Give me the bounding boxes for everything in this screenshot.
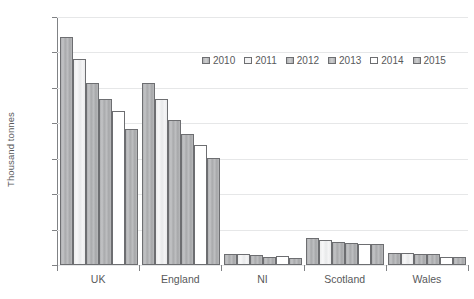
x-tick-mark [221,265,222,271]
y-tick-mark [52,194,57,195]
bar[interactable] [155,99,168,265]
y-tick-mark [52,230,57,231]
y-tick-mark [52,159,57,160]
x-tick-mark [468,265,469,271]
bar[interactable] [86,83,99,265]
legend-swatch-icon [328,57,336,64]
bar[interactable] [207,158,220,265]
legend-item[interactable]: 2010 [202,55,235,66]
x-tick-mark [304,265,305,271]
x-tick-mark [386,265,387,271]
legend-item[interactable]: 2013 [328,55,361,66]
x-axis-category-label: Wales [386,273,468,289]
legend-item[interactable]: 2015 [413,55,446,66]
bar-chart: Thousand tonnes 020004000600080001000012… [0,0,474,299]
bar-group [58,17,140,265]
bar[interactable] [358,244,371,265]
bar[interactable] [276,256,289,265]
bar[interactable] [427,254,440,265]
legend-label: 2010 [213,55,235,66]
bar[interactable] [319,240,332,265]
x-axis-category-label: UK [57,273,139,289]
legend-label: 2012 [297,55,319,66]
x-tick-mark [139,265,140,271]
bar[interactable] [224,254,237,266]
legend-label: 2011 [255,55,277,66]
bar[interactable] [112,111,125,265]
y-tick-mark [52,17,57,18]
bar[interactable] [263,257,276,266]
bar[interactable] [125,129,138,265]
bar[interactable] [73,59,86,265]
y-tick-mark [52,88,57,89]
bar[interactable] [142,83,155,265]
legend-item[interactable]: 2012 [286,55,319,66]
x-axis-category-label: Scotland [304,273,386,289]
y-axis-title: Thousand tonnes [2,0,18,299]
legend-label: 2015 [424,55,446,66]
bar[interactable] [181,134,194,265]
bar[interactable] [194,145,207,265]
legend-swatch-icon [202,57,210,64]
legend-swatch-icon [244,57,252,64]
x-axis-category-label: NI [221,273,303,289]
legend-label: 2014 [381,55,403,66]
bar[interactable] [168,120,181,265]
x-axis-ticks [57,265,468,271]
legend-item[interactable]: 2014 [370,55,403,66]
bar[interactable] [60,37,73,266]
bar[interactable] [388,253,401,265]
bar[interactable] [332,242,345,265]
bar[interactable] [401,253,414,265]
bars [58,17,140,265]
bar[interactable] [237,254,250,265]
bar[interactable] [345,243,358,265]
bar[interactable] [250,255,263,265]
x-tick-mark [57,265,58,271]
legend-swatch-icon [370,57,378,64]
y-tick-mark [52,123,57,124]
bar[interactable] [371,244,384,265]
y-tick-mark [52,52,57,53]
bar[interactable] [306,238,319,265]
legend-swatch-icon [413,57,421,64]
bar[interactable] [99,99,112,265]
bar[interactable] [414,254,427,266]
bar[interactable] [453,257,466,265]
bar[interactable] [289,258,302,265]
legend: 201020112012201320142015 [202,55,446,66]
x-axis-category-label: England [139,273,221,289]
legend-label: 2013 [339,55,361,66]
legend-swatch-icon [286,57,294,64]
x-axis-labels: UKEnglandNIScotlandWales [57,273,468,289]
bar[interactable] [440,257,453,265]
legend-item[interactable]: 2011 [244,55,277,66]
